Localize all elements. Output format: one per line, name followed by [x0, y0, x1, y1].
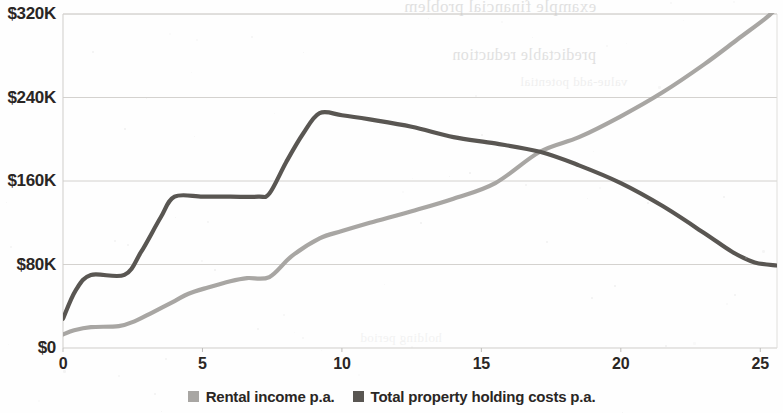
- x-axis-tick-label: 15: [473, 355, 490, 373]
- x-axis-tick-label: 0: [59, 355, 68, 373]
- legend-swatch-icon: [188, 391, 199, 402]
- legend-label: Total property holding costs p.a.: [371, 388, 596, 405]
- legend-item[interactable]: Total property holding costs p.a.: [353, 388, 596, 405]
- legend-label: Rental income p.a.: [206, 388, 335, 405]
- x-axis-tick-label: 5: [198, 355, 207, 373]
- x-axis-tick-label: 10: [333, 355, 350, 373]
- legend-item[interactable]: Rental income p.a.: [188, 388, 335, 405]
- x-axis-tick-label: 25: [752, 355, 769, 373]
- chart-legend: Rental income p.a.Total property holding…: [0, 388, 783, 405]
- x-axis: 0510152025: [0, 0, 783, 413]
- legend-swatch-icon: [353, 391, 364, 402]
- x-axis-tick-label: 20: [612, 355, 629, 373]
- chart-container: example financial problem predictable re…: [0, 0, 783, 413]
